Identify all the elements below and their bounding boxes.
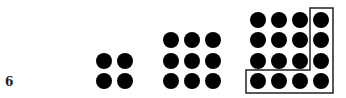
l-shape-outline [0, 0, 346, 98]
